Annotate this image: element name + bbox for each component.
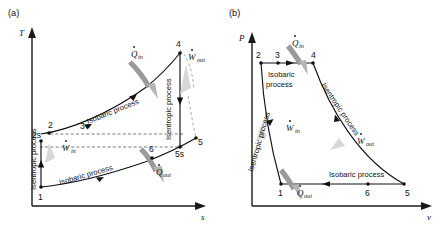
panel-a-qin-arrow-shaft	[130, 62, 149, 87]
panel-a-isobaric-lower-label: Isobaric process	[58, 163, 114, 187]
panel-b-point-1	[279, 182, 283, 186]
panel-a-ghost-lines	[180, 50, 196, 137]
panel-a-x-axis-label: s	[201, 212, 205, 222]
panel-b-label-4: 4	[311, 50, 316, 60]
panel-a-state-dots	[39, 51, 198, 189]
panel-b-process-labels: Isobaric process Isobaric process Isentr…	[246, 70, 384, 179]
panel-b-point-4	[311, 61, 315, 65]
panel-b-wout-subscript: out	[366, 140, 374, 147]
panel-b-label-6: 6	[365, 188, 370, 198]
panel-b-qout-symbol: Q	[297, 188, 304, 198]
panel-b-dir-arrow-upper	[286, 60, 294, 65]
panel-b-win-dot-icon	[289, 120, 291, 122]
panel-b-qout-arrow-shaft	[281, 170, 294, 189]
panel-a-qin-arrow-head	[147, 83, 158, 99]
panel-b-x-axis-label: v	[427, 212, 431, 222]
panel-a-label-2: 2	[48, 120, 53, 130]
panel-b-isobaric-lower-label: Isobaric process	[329, 170, 384, 179]
panel-b-qout-label: Q out	[297, 185, 312, 199]
panel-b-label-5: 5	[405, 188, 410, 198]
panel-a-win-symbol: W	[62, 143, 71, 153]
panel-a-qin-symbol: Q	[131, 49, 138, 59]
panel-a-label-5: 5	[198, 137, 203, 147]
figure-container: (a) T s	[0, 0, 443, 236]
panel-a-win-label: W in	[62, 140, 76, 154]
panel-a-point-2	[47, 131, 51, 135]
panel-a-wout-dot-icon	[191, 49, 193, 51]
panel-b-tag: (b)	[229, 8, 240, 18]
panel-b-isobaric-upper-label2: process	[266, 80, 293, 89]
panel-a-label-4: 4	[176, 39, 181, 49]
panel-a-isentropic-right-label: Isentropic process	[164, 78, 173, 140]
panel-a-wout-symbol: W	[188, 52, 197, 62]
panel-a-y-axis-label: T	[19, 28, 25, 38]
panel-a-point-1	[39, 185, 43, 189]
panel-b-y-axis-arrowhead	[248, 32, 256, 43]
panel-a-label-6: 6	[149, 144, 154, 154]
panel-b-wout-label: W out	[357, 133, 374, 147]
panel-a-dir-arrow-right-down	[177, 98, 183, 106]
panel-a-qout-label: Q out	[156, 164, 171, 178]
panel-a-label-1: 1	[38, 192, 43, 202]
panel-b-qin-subscript: in	[299, 42, 304, 49]
panel-b-qout-subscript: out	[304, 192, 312, 199]
panel-b-label-1: 1	[278, 188, 283, 198]
panel-b-isentropic-right-label: Isentropic process	[319, 81, 361, 137]
panel-a-win-subscript: in	[71, 147, 76, 154]
panel-a-point-6	[150, 156, 154, 160]
panel-b-point-2	[259, 61, 263, 65]
panel-a-isobaric-upper-curve	[41, 53, 180, 134]
panel-a-qout-dot-icon	[158, 164, 160, 166]
panel-a-win-ghost-arrow	[45, 143, 55, 163]
panel-b-y-axis-label: P	[238, 33, 245, 43]
panel-a-qout-subscript: out	[163, 171, 171, 178]
panel-b-win-label: W in	[286, 120, 300, 134]
panel-b-wout-symbol: W	[357, 136, 366, 146]
panel-b-qin-symbol: Q	[292, 38, 299, 48]
panel-a-label-5s: 5s	[175, 149, 184, 159]
panel-a-wout-subscript: out	[197, 56, 205, 63]
panel-b-win-symbol: W	[286, 123, 295, 133]
panel-a-x-axis-arrowhead	[195, 202, 206, 210]
panel-b-qin-dot-icon	[294, 35, 296, 37]
panel-a-dir-arrow-left-up	[38, 160, 44, 168]
panel-b-label-3: 3	[275, 50, 280, 60]
panel-b-label-2: 2	[256, 50, 261, 60]
panel-a-qin-label: Q in	[131, 46, 143, 60]
panel-b-wout-ghost-arrow	[330, 138, 345, 150]
panel-b-work-ghost-arrows	[256, 125, 345, 150]
panel-b-qin-arrow-head	[299, 60, 308, 75]
thermodynamic-diagrams-svg: (a) T s	[0, 0, 443, 236]
panel-a-isobaric-upper-label: Isobaric process	[85, 97, 140, 126]
panel-b-dir-arrow-lower	[322, 181, 330, 186]
panel-a-ghost-dash-bottom	[188, 96, 196, 137]
panel-a-tag: (a)	[8, 8, 19, 18]
panel-b-x-axis-arrowhead	[421, 202, 432, 210]
panel-a-wout-label: W out	[188, 49, 205, 63]
panel-a-point-4	[178, 51, 182, 55]
panel-a: (a) T s	[8, 8, 206, 222]
panel-a-qin-dot-icon	[133, 46, 135, 48]
panel-b-qout-dot-icon	[299, 185, 301, 187]
panel-b-point-6	[366, 182, 370, 186]
panel-b-qin-label: Q in	[292, 35, 304, 49]
panel-a-qout-arrow	[141, 149, 164, 183]
panel-a-qout-symbol: Q	[156, 167, 163, 177]
panel-b-wout-dot-icon	[360, 133, 362, 135]
panel-a-dir-arrow-lower-1	[96, 177, 104, 182]
panel-b-win-subscript: in	[295, 127, 300, 134]
panel-a-y-axis-arrowhead	[28, 27, 36, 38]
panel-b-isentropic-left-label: Isentropic process	[246, 111, 272, 173]
panel-b-point-5	[402, 182, 406, 186]
panel-a-wout-ghost-arrow	[180, 64, 191, 94]
panel-b: (b) P v	[229, 8, 432, 222]
panel-a-win-dot-icon	[65, 140, 67, 142]
panel-a-qin-subscript: in	[138, 53, 143, 60]
panel-b-point-3	[276, 61, 280, 65]
panel-b-isobaric-upper-label: Isobaric	[268, 70, 295, 79]
panel-a-label-3: 3	[80, 121, 85, 131]
panel-a-isentropic-left-label: Isentropic process	[29, 128, 38, 190]
